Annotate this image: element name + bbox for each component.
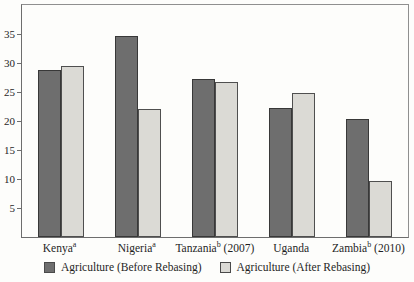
y-tick-label: 10: [0, 172, 15, 186]
bar-before-nigeria: [115, 36, 138, 237]
rebasing-bar-chart: 5101520253035 KenyaaNigeriaaTanzaniab (2…: [0, 0, 414, 282]
y-tick-mark: [17, 150, 21, 151]
bar-after-nigeria: [138, 109, 161, 237]
y-tick-label: 20: [0, 114, 15, 128]
y-tick-mark: [17, 121, 21, 122]
legend-swatch-after: [220, 262, 231, 273]
y-tick-mark: [17, 34, 21, 35]
bar-after-kenya: [61, 66, 84, 237]
x-category-label-kenya: Kenyaa: [21, 241, 98, 256]
y-tick-label: 5: [0, 201, 15, 215]
legend-label: Agriculture (After Rebasing): [237, 261, 370, 273]
category-name: Nigeria: [118, 242, 152, 254]
bar-after-uganda: [292, 93, 315, 237]
category-footnote-marker: a: [73, 240, 77, 249]
x-category-label-uganda: Uganda: [253, 241, 330, 256]
x-category-label-tanzania: Tanzaniab (2007): [175, 241, 252, 256]
legend-swatch-before: [44, 262, 55, 273]
legend-label: Agriculture (Before Rebasing): [61, 261, 202, 273]
bar-before-kenya: [38, 70, 61, 237]
plot-area: [21, 4, 409, 238]
category-footnote-marker: a: [152, 240, 156, 249]
y-tick-label: 25: [0, 85, 15, 99]
bar-before-tanzania: [192, 79, 215, 237]
y-tick-label: 35: [0, 27, 15, 41]
y-tick-mark: [17, 92, 21, 93]
y-tick-label: 15: [0, 143, 15, 157]
bar-before-uganda: [269, 108, 292, 237]
legend-item-before: Agriculture (Before Rebasing): [44, 261, 202, 273]
category-name: Tanzania: [175, 242, 216, 254]
bar-after-zambia: [369, 181, 392, 237]
category-year-suffix: (2010): [371, 242, 405, 254]
legend-item-after: Agriculture (After Rebasing): [220, 261, 370, 273]
bar-after-tanzania: [215, 82, 238, 237]
y-tick-mark: [17, 179, 21, 180]
y-tick-mark: [17, 208, 21, 209]
x-category-label-nigeria: Nigeriaa: [98, 241, 175, 256]
category-year-suffix: (2007): [221, 242, 255, 254]
x-category-label-zambia: Zambiab (2010): [330, 241, 407, 256]
y-tick-mark: [17, 63, 21, 64]
category-name: Kenya: [43, 242, 73, 254]
category-name: Uganda: [273, 242, 309, 254]
y-tick-label: 30: [0, 56, 15, 70]
legend: Agriculture (Before Rebasing)Agriculture…: [0, 261, 414, 273]
category-name: Zambia: [332, 242, 367, 254]
bar-before-zambia: [346, 119, 369, 237]
